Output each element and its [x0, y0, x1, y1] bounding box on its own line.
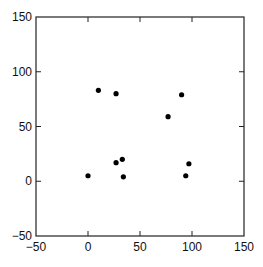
x-tick-label: 150 [234, 240, 254, 254]
data-point [85, 173, 90, 178]
data-point [183, 173, 188, 178]
y-tick-label: 100 [12, 65, 32, 79]
data-point [96, 88, 101, 93]
data-point [186, 161, 191, 166]
y-tick-label: 150 [12, 10, 32, 24]
y-tick-label: −50 [12, 229, 33, 243]
y-tick-label: 50 [19, 120, 33, 134]
data-point [165, 114, 170, 119]
x-tick-label: 100 [182, 240, 202, 254]
data-point [113, 91, 118, 96]
y-tick-label: 0 [25, 174, 32, 188]
data-points [85, 88, 191, 180]
plot-area-frame [36, 17, 244, 236]
data-point [113, 160, 118, 165]
axis-ticks [36, 17, 244, 236]
data-point [179, 92, 184, 97]
data-point [120, 157, 125, 162]
data-point [121, 174, 126, 179]
x-tick-label: 0 [85, 240, 92, 254]
x-tick-label: 50 [133, 240, 147, 254]
y-axis-tick-labels: −50050100150 [12, 10, 33, 243]
x-axis-tick-labels: −50050100150 [26, 240, 255, 254]
scatter-chart: −50050100150 −50050100150 [0, 0, 263, 267]
